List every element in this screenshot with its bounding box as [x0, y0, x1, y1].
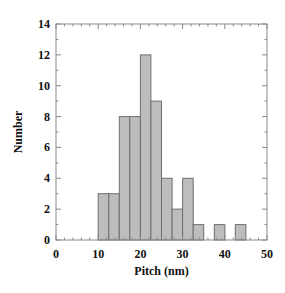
x-tick-labels: 01020304050 [53, 247, 273, 261]
histogram-bar [172, 209, 183, 240]
y-tick-label: 6 [44, 140, 50, 154]
y-tick-label: 0 [44, 233, 50, 247]
histogram-bar [235, 225, 246, 240]
y-axis-title: Number [11, 110, 25, 153]
histogram-bar [98, 194, 109, 240]
histogram-bar [119, 117, 130, 240]
histogram-bar [183, 178, 194, 240]
y-tick-label: 4 [44, 171, 50, 185]
histogram-bars [98, 55, 246, 240]
histogram-bar [162, 178, 173, 240]
histogram-bar [109, 194, 120, 240]
x-tick-label: 40 [219, 247, 231, 261]
y-tick-label: 14 [38, 17, 50, 31]
histogram-bar [193, 225, 204, 240]
x-tick-label: 30 [177, 247, 189, 261]
histogram-bar [151, 101, 162, 240]
x-tick-label: 10 [92, 247, 104, 261]
x-tick-label: 0 [53, 247, 59, 261]
y-tick-labels: 02468101214 [38, 17, 50, 247]
x-axis-title: Pitch (nm) [134, 264, 188, 278]
x-tick-label: 50 [261, 247, 273, 261]
x-tick-label: 20 [134, 247, 146, 261]
histogram-bar [140, 55, 151, 240]
y-tick-label: 8 [44, 110, 50, 124]
y-tick-label: 2 [44, 202, 50, 216]
histogram-bar [130, 117, 141, 240]
histogram-chart: 02468101214 01020304050 Pitch (nm) Numbe… [0, 0, 285, 293]
y-tick-label: 10 [38, 79, 50, 93]
y-tick-label: 12 [38, 48, 50, 62]
